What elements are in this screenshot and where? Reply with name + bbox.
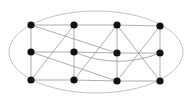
node-B2 — [70, 48, 77, 55]
node-C3 — [113, 77, 120, 84]
node-A4 — [156, 22, 163, 29]
node-A1 — [27, 21, 34, 28]
node-B3 — [113, 49, 120, 56]
edge-C2-C3 — [74, 80, 117, 81]
node-A2 — [70, 21, 77, 28]
node-C2 — [70, 76, 77, 83]
node-A3 — [113, 21, 120, 28]
edge-A2-C1 — [31, 25, 74, 80]
edge-A3-A4 — [117, 25, 160, 26]
node-C1 — [27, 76, 34, 83]
graph-diagram — [0, 0, 194, 103]
graph-edges — [31, 25, 160, 81]
node-B4 — [156, 49, 163, 56]
node-C4 — [156, 77, 163, 84]
node-B1 — [27, 48, 34, 55]
